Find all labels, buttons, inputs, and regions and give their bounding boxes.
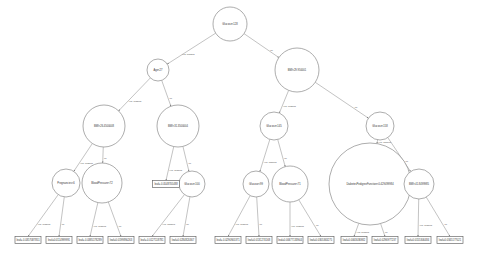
tree-edge: no [315, 82, 368, 118]
tree-edge: no [183, 197, 190, 237]
edge-label: yes, missing [162, 223, 175, 226]
leaf-node-label: leaf=-0.0385178289 [78, 238, 102, 242]
tree-edge: yes, missing [28, 195, 58, 237]
split-node-label: BloodPressure<71 [279, 182, 301, 186]
leaf-node: leaf=0.0345177021 [437, 237, 463, 244]
leaf-node: leaf=-0.0290905371 [215, 237, 241, 244]
edge-label: yes, missing [169, 169, 182, 172]
leaf-node: leaf=0.0305363275 [308, 237, 334, 244]
leaf-node-label: leaf=0.00677133944 [278, 238, 302, 242]
edge-label: no [355, 106, 358, 108]
edge-label: no [119, 225, 122, 227]
split-node-label: BMI<29.950001 [288, 68, 307, 72]
split-node: BMI<41.8499985 [404, 169, 434, 199]
tree-edge: yes, missing [167, 33, 215, 64]
split-node-label: Pregnancies<6 [57, 181, 75, 185]
edge-label: yes, missing [93, 225, 106, 228]
edge-label: yes, missing [80, 162, 93, 165]
leaf-node: leaf=0.0063036982 [341, 237, 367, 244]
edge-label: no [385, 231, 388, 233]
split-node: Glucose<158 [366, 112, 394, 140]
tree-edge: no [183, 146, 192, 171]
tree-edge: no [278, 139, 288, 166]
tree-edge: no [102, 147, 107, 163]
split-node: Glucose<128 [213, 7, 247, 41]
leaf-node: leaf=-0.0385178289 [77, 237, 103, 244]
leaf-node-label: leaf=0.0131274168 [248, 238, 271, 242]
leaf-node-label: leaf=-0.0290905371 [216, 238, 240, 242]
edge-label: no [186, 223, 189, 225]
edge-label: no [104, 157, 107, 159]
edge-label: yes, missing [357, 231, 370, 234]
leaf-node: leaf=0.00677133944 [277, 237, 303, 244]
tree-edge: yes, missing [289, 202, 304, 237]
tree-edge: yes, missing [119, 78, 151, 111]
leaf-node-label: leaf=0.0284820367 [172, 238, 195, 242]
edge-label: yes, missing [291, 225, 304, 228]
split-node: BloodPressure<71 [272, 166, 308, 202]
split-node-label: Glucose<145 [266, 124, 282, 128]
tree-edge: no [381, 224, 389, 237]
tree-edge: yes, missing [152, 195, 184, 237]
split-node-label: Glucose<99 [249, 182, 263, 186]
edge-label: no [405, 160, 408, 162]
tree-edge: yes, missing [354, 223, 370, 236]
split-node-label: BMI<26.4500008 [94, 124, 114, 128]
edge-label: no [316, 224, 319, 226]
edge-label: no [270, 49, 273, 51]
leaf-node-label: leaf=-0.0127118781 [141, 238, 165, 242]
split-node: Age<27 [147, 59, 169, 81]
split-node: BMI<26.4500008 [83, 105, 125, 147]
edge-label: yes, missing [283, 105, 296, 108]
split-node-label: DiabetesPedigreeFunction<0.429499984 [346, 182, 394, 186]
leaf-node: leaf=0.0114999991 [46, 237, 72, 244]
edge-label: yes, missing [419, 224, 432, 227]
split-node-label: Age<27 [153, 68, 163, 72]
edge-label: yes, missing [129, 100, 142, 103]
leaf-node: leaf=0.0199890263 [108, 237, 134, 244]
edge-label: no [260, 223, 263, 225]
leaf-node-label: leaf=-0.0357087851 [16, 238, 40, 242]
split-node: Pregnancies<6 [52, 169, 80, 197]
tree-edge: no [108, 202, 122, 237]
split-node-label: BloodPressure<72 [91, 181, 113, 185]
tree-edge: yes, missing [166, 147, 183, 181]
edge-label: yes, missing [38, 223, 51, 226]
leaf-node: leaf=-0.0548705488 [153, 181, 180, 188]
tree-edge: yes, missing [279, 90, 296, 113]
tree-edge: no [257, 197, 263, 237]
split-node-label: Glucose<100 [184, 182, 200, 186]
edge-label: no [284, 157, 287, 159]
leaf-node-label: leaf=0.0155306484 [407, 238, 430, 242]
edge-label: yes, missing [378, 141, 391, 144]
edge-label: yes, missing [264, 161, 277, 164]
leaf-node-label: leaf=-0.0548705488 [154, 182, 178, 186]
edge-label: yes, missing [235, 223, 248, 226]
split-node-label: Glucose<158 [372, 124, 388, 128]
split-node: BMI<31.3500004 [157, 105, 199, 147]
leaf-node-label: leaf=0.0114999991 [48, 238, 71, 242]
leaf-node-label: leaf=0.0345177021 [439, 238, 462, 242]
leaf-node-label: leaf=0.0199890263 [110, 238, 133, 242]
leaf-node-label: leaf=0.0296977237 [374, 238, 397, 242]
leaf-node: leaf=-0.0127118781 [139, 237, 165, 244]
split-node: DiabetesPedigreeFunction<0.429499984 [329, 143, 411, 225]
edge-label: no [170, 97, 173, 99]
decision-tree-diagram: yes, missingnoyes, missingnoyes, missing… [0, 0, 480, 254]
edge-label: no [188, 162, 191, 164]
tree-edge: no [59, 197, 65, 237]
edge-label: yes, missing [182, 53, 195, 56]
leaf-node: leaf=-0.0357087851 [15, 237, 41, 244]
split-node: BloodPressure<72 [82, 163, 122, 203]
split-node: Glucose<99 [243, 171, 269, 197]
edge-label: no [62, 223, 65, 225]
leaf-node: leaf=0.0155306484 [405, 237, 431, 244]
split-node: Glucose<100 [179, 171, 205, 197]
leaf-node: leaf=0.0131274168 [246, 237, 272, 244]
split-node-label: BMI<41.8499985 [409, 182, 429, 186]
split-node-label: BMI<31.3500004 [168, 124, 188, 128]
leaf-node-label: leaf=0.0305363275 [310, 238, 333, 242]
leaf-node: leaf=0.0284820367 [170, 237, 196, 244]
split-node: Glucose<145 [260, 112, 288, 140]
tree-edge: no [426, 197, 450, 236]
